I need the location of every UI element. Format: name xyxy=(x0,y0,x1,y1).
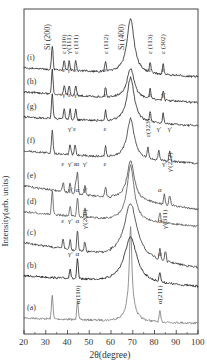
peak-label: ε xyxy=(73,125,76,133)
peak-label: ε xyxy=(74,66,77,74)
curve-label: (i) xyxy=(27,53,35,62)
peak-label: ε xyxy=(61,217,64,225)
peak-label: γ' xyxy=(82,186,87,194)
x-tick-label: 20 xyxy=(19,337,29,347)
peak-label: γ'(311) xyxy=(161,209,169,230)
peak-label: ε (302) xyxy=(159,33,167,54)
x-tick-label: 100 xyxy=(191,337,205,347)
peak-label: α xyxy=(76,217,80,225)
peak-label: ε xyxy=(62,66,65,74)
peak-label: ε xyxy=(104,125,107,133)
peak-label: α xyxy=(76,186,80,194)
peak-label: ε xyxy=(104,66,107,74)
peak-label: γ' xyxy=(61,91,66,99)
x-tick-label: 50 xyxy=(84,337,94,347)
curve-label: (g) xyxy=(27,102,37,111)
peak-label: ε xyxy=(68,91,71,99)
peak-label: γ' xyxy=(67,217,72,225)
peak-annotations: (a)α(110)α(211)(b)γ'αα(c)εγ'αγ'(200)αγ'(… xyxy=(27,24,174,312)
curve-label: (a) xyxy=(27,303,36,312)
peak-label: α(211) xyxy=(156,285,164,304)
xrd-curve xyxy=(24,165,198,227)
curve-label: (c) xyxy=(27,228,36,237)
peak-label: γ' xyxy=(67,250,72,258)
x-axis-label: 2θ(degree) xyxy=(60,350,160,360)
peak-label: ε xyxy=(61,160,64,168)
peak-label: γ' xyxy=(160,91,165,99)
peak-label: γ' xyxy=(73,91,78,99)
xrd-chart: (a)α(110)α(211)(b)γ'αα(c)εγ'αγ'(200)αγ'(… xyxy=(0,0,207,363)
peak-label: α xyxy=(76,250,80,258)
peak-label: α xyxy=(158,186,162,194)
curve-label: (b) xyxy=(27,261,37,270)
peak-label: ε(123) xyxy=(144,118,152,137)
si200-label: Si (200) xyxy=(43,24,52,50)
peak-label: γ' xyxy=(67,160,72,168)
peak-label: ε (112) xyxy=(102,34,110,54)
peak-label: α xyxy=(158,250,162,258)
peak-label: ε xyxy=(148,91,151,99)
peak-label: α(110) xyxy=(74,285,82,304)
peak-label: ε (111) xyxy=(72,34,80,54)
peak-label: γ' xyxy=(67,186,72,194)
peak-label: γ' xyxy=(66,66,71,74)
x-tick-label: 80 xyxy=(150,337,160,347)
xrd-curve xyxy=(24,69,198,104)
x-tick-label: 40 xyxy=(63,337,73,347)
curve-label: (d) xyxy=(27,197,37,206)
peak-label: γ'(222) xyxy=(166,152,174,173)
x-tick-label: 70 xyxy=(128,337,138,347)
x-axis: 2030405060708090100 xyxy=(19,330,205,347)
peak-label: γ' xyxy=(156,125,161,133)
x-tick-label: 30 xyxy=(41,337,51,347)
peak-label: ε xyxy=(104,91,107,99)
curve-label: (e) xyxy=(27,171,36,180)
peak-label: ε xyxy=(161,66,164,74)
si400-label: Si (400) xyxy=(117,24,126,50)
curve-label: (f) xyxy=(27,136,35,145)
x-tick-label: 60 xyxy=(106,337,116,347)
y-axis-label: Intensity(arb. units) xyxy=(0,161,12,261)
x-tick-label: 90 xyxy=(171,337,181,347)
peak-label: γ' xyxy=(82,160,87,168)
peak-label: γ' xyxy=(67,125,72,133)
xrd-curve xyxy=(24,77,198,127)
curve-label: (h) xyxy=(27,77,37,86)
peak-label: ε xyxy=(148,66,151,74)
peak-label: α xyxy=(76,160,80,168)
peak-label: γ' xyxy=(167,125,172,133)
peak-label: γ'(200) xyxy=(81,209,89,230)
peak-label: ε xyxy=(104,160,107,168)
peak-label: ε (113) xyxy=(146,34,154,54)
